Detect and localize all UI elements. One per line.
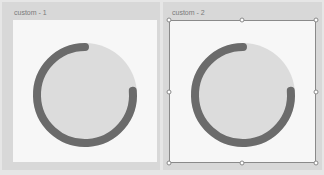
panel-title: custom - 1 — [14, 9, 47, 16]
resize-handle-top-right[interactable] — [314, 18, 319, 23]
widget-panel-custom-2[interactable]: custom - 2 — [163, 2, 322, 170]
progress-ring-gauge — [169, 20, 316, 163]
resize-handle-top-center[interactable] — [240, 18, 245, 23]
widget-panel-custom-1[interactable]: custom - 1 — [2, 2, 160, 170]
gauge-area — [13, 20, 157, 162]
resize-handle-bottom-right[interactable] — [314, 161, 319, 166]
progress-ring-gauge — [13, 20, 157, 162]
resize-handle-middle-right[interactable] — [314, 90, 319, 95]
resize-handle-middle-left[interactable] — [167, 90, 172, 95]
panel-title: custom - 2 — [172, 9, 205, 16]
resize-handle-top-left[interactable] — [167, 18, 172, 23]
gauge-area — [169, 20, 316, 163]
resize-handle-bottom-left[interactable] — [167, 161, 172, 166]
resize-handle-bottom-center[interactable] — [240, 161, 245, 166]
